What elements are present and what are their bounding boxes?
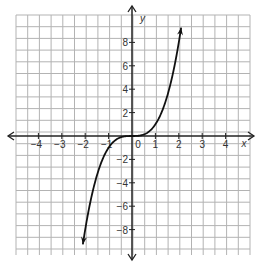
x-tick-label: −3 bbox=[54, 139, 66, 150]
x-axis-label: x bbox=[241, 138, 248, 149]
y-tick-label: 2 bbox=[122, 108, 128, 119]
y-tick-label: 6 bbox=[122, 61, 128, 72]
x-tick-label: −2 bbox=[77, 139, 89, 150]
x-tick-label: 3 bbox=[199, 139, 205, 150]
y-tick-label: −2 bbox=[117, 154, 129, 165]
origin-label: 0 bbox=[135, 139, 141, 150]
y-axis-label: y bbox=[139, 13, 146, 24]
x-tick-label: 2 bbox=[176, 139, 182, 150]
y-tick-label: −8 bbox=[117, 225, 129, 236]
y-tick-label: 8 bbox=[122, 37, 128, 48]
x-tick-label: −4 bbox=[31, 139, 43, 150]
axes bbox=[8, 6, 254, 260]
grid bbox=[16, 15, 250, 255]
y-tick-label: −4 bbox=[117, 178, 129, 189]
y-tick-label: 4 bbox=[122, 84, 128, 95]
x-tick-label: 4 bbox=[223, 139, 229, 150]
cubic-function-graph: −4−3−2−11234−8−6−4−224680xy bbox=[0, 0, 264, 267]
y-tick-label: −6 bbox=[117, 201, 129, 212]
x-tick-label: 1 bbox=[153, 139, 159, 150]
